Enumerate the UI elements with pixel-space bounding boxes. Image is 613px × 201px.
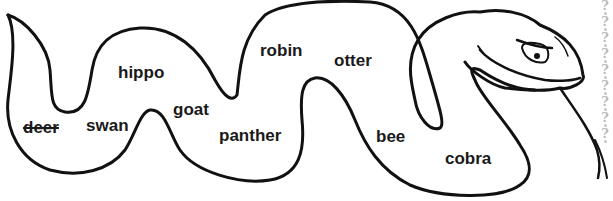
snake-illustration	[0, 0, 613, 201]
snake-pupil	[534, 53, 540, 59]
question-mark-icon: ?	[601, 32, 609, 43]
question-mark-icon: ?	[601, 112, 609, 123]
question-mark-border: ?????????	[597, 0, 613, 201]
question-mark-icon: ?	[601, 128, 609, 139]
word-panther: panther	[219, 127, 281, 144]
word-swan: swan	[86, 117, 129, 134]
word-bee: bee	[376, 128, 405, 145]
question-mark-icon: ?	[601, 80, 609, 91]
snake-body-outline	[8, 1, 583, 128]
border-dot	[604, 140, 607, 143]
word-robin: robin	[260, 42, 303, 59]
question-mark-icon: ?	[601, 96, 609, 107]
word-deer: deer	[23, 119, 59, 136]
question-mark-icon: ?	[601, 0, 609, 11]
word-cobra: cobra	[445, 150, 491, 167]
word-hippo: hippo	[118, 64, 164, 81]
question-mark-icon: ?	[601, 16, 609, 27]
snake-neck-line	[560, 88, 599, 178]
word-goat: goat	[173, 101, 209, 118]
word-otter: otter	[334, 52, 372, 69]
question-mark-icon: ?	[601, 48, 609, 59]
question-mark-icon: ?	[601, 64, 609, 75]
